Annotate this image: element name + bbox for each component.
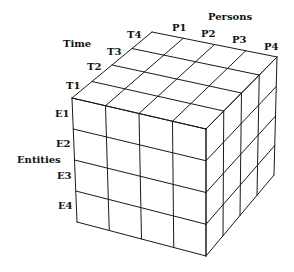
axis-label-p1: P1 (172, 22, 186, 33)
axis-title-persons: Persons (208, 11, 252, 22)
axis-label-p4: P4 (264, 41, 279, 52)
axis-label-t3: T3 (107, 46, 121, 57)
axis-title-time: Time (63, 38, 91, 49)
axis-label-t1: T1 (66, 80, 80, 91)
axis-label-e4: E4 (58, 200, 73, 211)
axis-label-t4: T4 (127, 29, 141, 40)
axis-title-entities: Entities (17, 154, 61, 165)
axis-label-e1: E1 (55, 108, 70, 119)
axis-label-p3: P3 (232, 34, 247, 45)
axis-label-e2: E2 (56, 138, 71, 149)
cube-faces (72, 32, 277, 256)
axis-label-p2: P2 (201, 28, 216, 39)
axis-label-e3: E3 (57, 170, 72, 181)
data-cube-diagram: Persons P1 P2 P3 P4 Time T4 T3 T2 T1 Ent… (0, 0, 294, 272)
axis-label-t2: T2 (87, 61, 101, 72)
